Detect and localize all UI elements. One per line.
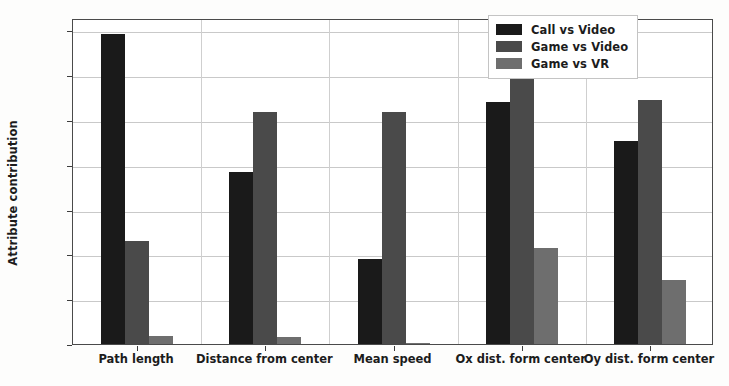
x-tick-label: Path length [98,352,173,366]
bar [149,336,173,344]
x-tick-label: Ox dist. form center [455,352,585,366]
bar [406,343,430,344]
bar [253,112,277,344]
bar [510,36,534,344]
bar [614,141,638,344]
vertical-gridline [201,20,202,344]
bar [101,34,125,344]
y-tick-mark [67,300,72,301]
x-tick-label: Oy dist. form center [584,352,715,366]
legend-item[interactable]: Game vs VR [496,55,628,72]
vertical-gridline [458,20,459,344]
y-tick-mark [67,345,72,346]
bar [534,248,558,344]
bar [662,280,686,344]
bar [277,337,301,344]
x-tick-label: Distance from center [196,352,333,366]
y-tick-mark [67,255,72,256]
y-tick-mark [67,76,72,77]
y-tick-mark [67,121,72,122]
x-tick-mark [650,346,651,351]
legend-label: Game vs Video [531,40,628,54]
bar [638,100,662,344]
bar [229,172,253,344]
vertical-gridline [329,20,330,344]
x-tick-mark [394,346,395,351]
bar [125,241,149,344]
legend-item[interactable]: Call vs Video [496,21,628,38]
bar [382,112,406,344]
legend-label: Game vs VR [531,57,609,71]
legend-swatch-icon [496,41,522,52]
bar [358,259,382,344]
legend-swatch-icon [496,24,522,35]
x-tick-mark [265,346,266,351]
x-tick-mark [137,346,138,351]
bar-chart-figure: Attribute contribution 0.00.10.20.30.40.… [0,0,729,386]
legend-label: Call vs Video [531,23,615,37]
x-tick-label: Mean speed [353,352,431,366]
chart-legend: Call vs VideoGame vs VideoGame vs VR [488,15,638,79]
y-tick-mark [67,211,72,212]
y-tick-mark [67,31,72,32]
bar [486,102,510,344]
y-tick-mark [67,166,72,167]
legend-swatch-icon [496,58,522,69]
x-tick-mark [522,346,523,351]
legend-item[interactable]: Game vs Video [496,38,628,55]
